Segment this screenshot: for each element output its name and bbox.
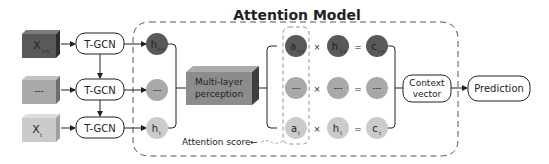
context-component-subscript: t-n [378,49,384,54]
context-component-label: --- [373,84,382,93]
context-component-label: c [372,123,378,134]
input-label: --- [34,86,44,96]
hidden-state-label: --- [334,84,343,93]
hidden-state-subscript: t [159,130,161,136]
attention-weight-label: a [291,123,297,134]
tgcn-block-1: T-GCN [76,33,124,54]
attention-model-diagram: Attention Model X t-n --- X t T-GCN T-GC… [0,0,549,164]
prediction-label: Prediction [474,83,524,94]
input-subscript: t [40,132,42,138]
hidden-state-subscript: t-n [158,46,165,52]
hidden-state-3: h t [146,117,168,139]
attention-score-annotation: Attention score ← [182,137,283,147]
hidden-state-label: h [333,123,339,134]
equals-operator: = [354,42,362,52]
attention-weight-subscript: t-n [298,49,304,54]
hidden-state-label: h [152,123,158,134]
times-operator: × [314,85,321,94]
attention-row-2: --- × --- = --- [285,77,388,99]
mlp-block: Multi-layer perception [186,66,259,105]
hidden-state-label: h [151,39,157,50]
attention-weight-label: --- [292,84,301,93]
input-box-3: X t [22,114,60,142]
mlp-label-line1: Multi-layer [195,77,243,87]
context-vector-block: Context vector [403,75,451,102]
tgcn-block-3: T-GCN [76,117,124,138]
mlp-label-line2: perception [195,89,243,99]
equals-operator: = [354,124,362,134]
diagram-title: Attention Model [233,7,361,23]
hidden-state-label: h [332,41,338,52]
hidden-state-subscript: t [340,130,342,136]
input-box-2: --- [22,76,60,104]
tgcn-label: T-GCN [83,123,115,134]
hidden-state-subscript: t-n [340,49,346,54]
equals-operator: = [354,84,362,94]
hidden-state-label: --- [153,86,162,95]
attention-row-3: a t × h t = c t [285,117,388,139]
context-vector-label-line1: Context [409,78,445,88]
tgcn-label: T-GCN [83,85,115,96]
input-subscript: t-n [42,48,49,54]
times-operator: × [314,43,321,52]
attention-weight-label: a [290,41,296,52]
context-component-label: c [371,41,377,52]
tgcn-block-2: T-GCN [76,79,124,100]
context-component-subscript: t [379,130,381,136]
attention-weight-subscript: t [298,130,300,136]
times-operator: × [314,125,321,134]
hidden-state-1: h t-n [146,33,168,55]
hidden-state-2: --- [146,79,168,101]
input-box-1: X t-n [22,30,60,58]
input-label: X [33,39,41,52]
context-vector-label-line2: vector [413,89,442,99]
prediction-block: Prediction [468,76,530,101]
attention-score-label: Attention score [182,137,251,147]
attention-row-1: a t-n × h t-n = c t-n [285,35,388,57]
left-arrow-icon: ← [250,137,258,147]
tgcn-label: T-GCN [83,39,115,50]
